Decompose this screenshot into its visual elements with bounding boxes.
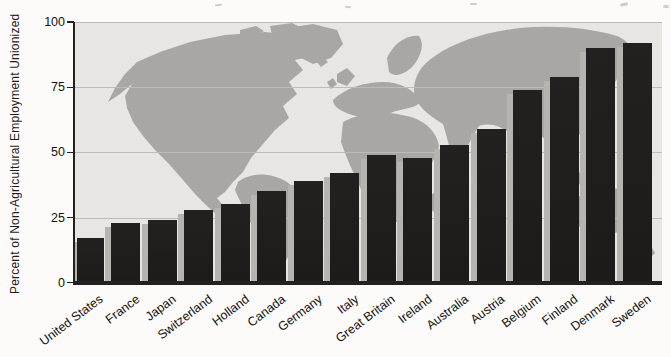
bar-italy: [330, 173, 359, 285]
y-tick-label-25: 25: [34, 211, 65, 225]
bar-japan: [148, 220, 177, 285]
y-tick-label-50: 50: [34, 145, 65, 159]
region-scandinavia: [387, 36, 422, 75]
islands-british-isles: [327, 68, 355, 89]
scan-artifact: [215, 4, 222, 7]
scan-artifact: [345, 6, 351, 9]
y-tick-50: [67, 152, 74, 153]
x-label-italy: Italy: [335, 292, 362, 317]
scan-artifact: [620, 2, 628, 6]
union-membership-figure: Percent of Non-Agricultural Employment U…: [0, 0, 671, 357]
y-tick-25: [67, 217, 74, 218]
gridline-100: [75, 22, 662, 23]
y-axis-line: [73, 22, 75, 285]
bar-sweden: [623, 43, 652, 285]
bar-great-britain: [367, 155, 396, 285]
y-tick-label-75: 75: [34, 80, 65, 94]
y-axis-title: Percent of Non-Agricultural Employment U…: [2, 22, 28, 285]
bar-australia: [440, 145, 469, 285]
bar-france: [111, 223, 140, 285]
scan-artifact: [663, 5, 669, 8]
x-label-holland: Holland: [209, 292, 251, 329]
bar-germany: [294, 181, 323, 285]
y-tick-label-0: 0: [34, 276, 65, 290]
y-tick-0: [67, 282, 74, 283]
bar-holland: [221, 204, 250, 285]
y-tick-75: [67, 87, 74, 88]
x-label-sweden: Sweden: [609, 292, 654, 330]
y-tick-label-100: 100: [34, 15, 65, 29]
x-label-united-states: United States: [37, 292, 105, 348]
bar-canada: [257, 191, 286, 285]
x-label-belgium: Belgium: [500, 292, 545, 330]
y-tick-100: [67, 21, 74, 22]
bar-switzerland: [184, 210, 213, 285]
x-label-france: France: [102, 292, 141, 327]
x-axis-line: [75, 281, 662, 286]
scan-artifact: [470, 3, 477, 5]
bar-united-states: [77, 238, 104, 285]
bar-finland: [550, 77, 579, 285]
bar-denmark: [586, 48, 615, 285]
bar-austria: [477, 129, 506, 285]
bar-ireland: [403, 158, 432, 285]
plot-area: [75, 22, 662, 285]
bar-belgium: [513, 90, 542, 285]
